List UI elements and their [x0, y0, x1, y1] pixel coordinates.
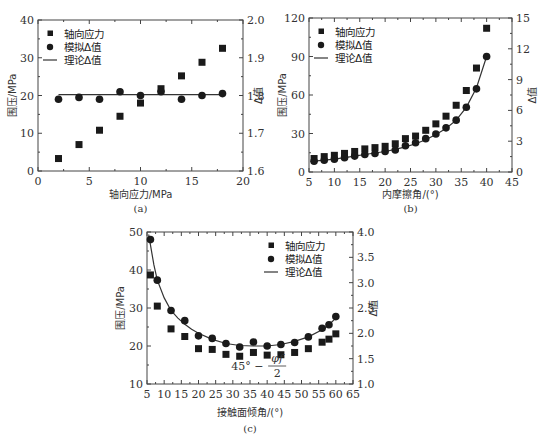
y-tick-label: 10	[129, 378, 143, 391]
y-axis-label: 围压/MPa	[115, 286, 126, 330]
square-marker	[181, 333, 188, 340]
y2-axis-label: Δ值	[367, 300, 379, 317]
x-tick-label: 50	[295, 388, 309, 401]
circle-marker	[137, 92, 145, 100]
square-marker	[178, 72, 185, 79]
legend-circle-label: 模拟Δ值	[285, 253, 323, 265]
chart-c: 510152025303540455055606510203040501.01.…	[115, 226, 379, 434]
square-marker	[332, 330, 339, 337]
y2-tick-label: 3	[516, 135, 523, 148]
svg-text:45° −: 45° −	[231, 360, 263, 373]
circle-marker	[381, 148, 389, 156]
y2-tick-label: 1.7	[247, 127, 265, 140]
circle-marker	[236, 343, 244, 351]
square-marker	[463, 87, 470, 94]
legend-line-label: 理论Δ值	[64, 54, 102, 66]
circle-marker	[452, 116, 460, 124]
circle-marker	[310, 157, 318, 165]
y2-axis-label: Δ值	[526, 87, 538, 104]
y2-tick-label: 2.0	[357, 327, 375, 340]
circle-marker	[351, 152, 359, 160]
x-tick-label: 45	[277, 388, 291, 401]
x-tick-label: 10	[134, 175, 148, 188]
legend-circle-icon	[268, 256, 274, 262]
y-axis-label: 围压/MPa	[7, 74, 18, 118]
circle-marker	[208, 335, 216, 343]
y2-tick-label: 4.0	[357, 226, 375, 239]
y2-tick-label: 3.0	[357, 277, 375, 290]
circle-marker	[305, 333, 313, 341]
circle-marker	[178, 95, 186, 103]
circle-marker	[277, 341, 285, 349]
legend-line-label: 理论Δ值	[335, 52, 373, 64]
y2-tick-label: 1.0	[357, 378, 375, 391]
square-marker	[236, 353, 243, 360]
y2-tick-label: 15	[516, 12, 530, 25]
circle-marker	[402, 142, 410, 150]
x-tick-label: 20	[192, 388, 206, 401]
circle-marker	[75, 94, 83, 102]
circle-marker	[412, 139, 420, 147]
subfigure-caption: (b)	[403, 203, 417, 214]
square-marker	[76, 141, 83, 148]
x-tick-label: 35	[243, 388, 257, 401]
square-marker	[250, 349, 257, 356]
theory-line	[314, 57, 487, 162]
square-marker	[319, 339, 326, 346]
circle-marker	[483, 53, 491, 61]
legend-square-label: 轴向应力	[285, 240, 325, 252]
circle-marker	[371, 150, 379, 158]
y-tick-label: 20	[129, 340, 143, 353]
square-marker	[422, 127, 429, 134]
x-tick-label: 5	[306, 176, 313, 189]
x-tick-label: 35	[454, 176, 468, 189]
circle-marker	[332, 313, 340, 321]
y2-tick-label: 2.0	[247, 14, 265, 27]
y2-axis-label: Δ值	[252, 87, 264, 104]
y-tick-label: 30	[20, 52, 34, 65]
square-marker	[473, 65, 480, 72]
circle-marker	[442, 124, 450, 132]
circle-marker	[432, 130, 440, 138]
square-marker	[195, 345, 202, 352]
circle-marker	[198, 92, 206, 100]
circle-marker	[331, 155, 339, 163]
y-tick-label: 10	[20, 127, 34, 140]
x-tick-label: 15	[353, 176, 367, 189]
legend: 轴向应力模拟Δ值理论Δ值	[314, 26, 375, 64]
circle-marker	[291, 339, 299, 347]
x-tick-label: 0	[35, 175, 42, 188]
legend-circle-label: 模拟Δ值	[335, 39, 373, 51]
legend-circle-icon	[318, 42, 324, 48]
y-tick-label: 30	[291, 128, 305, 141]
circle-marker	[473, 85, 481, 93]
square-marker	[305, 345, 312, 352]
square-marker	[137, 100, 144, 107]
x-axis-label: 内摩擦角/(°)	[382, 188, 438, 200]
subfigure-caption: (a)	[134, 203, 148, 214]
x-tick-label: 20	[378, 176, 392, 189]
x-tick-label: 15	[185, 175, 199, 188]
x-tick-label: 40	[480, 176, 494, 189]
circle-marker	[167, 307, 175, 315]
x-tick-label: 40	[260, 388, 274, 401]
chart-a: 051015200102030401.61.71.81.92.0轴向应力/MPa…	[7, 14, 265, 214]
circle-marker	[147, 236, 155, 244]
y-tick-label: 90	[291, 51, 305, 64]
x-axis-label: 接触面倾角/(°)	[217, 406, 283, 418]
x-tick-label: 25	[209, 388, 223, 401]
circle-marker	[422, 135, 430, 143]
circle-marker	[195, 332, 203, 340]
square-marker	[154, 303, 161, 310]
x-tick-label: 30	[429, 176, 443, 189]
x-tick-label: 5	[86, 175, 93, 188]
y2-tick-label: 0	[516, 166, 523, 179]
subfigure-caption: (c)	[243, 423, 257, 434]
legend-square-icon	[319, 29, 325, 35]
square-marker	[453, 102, 460, 109]
square-marker	[443, 113, 450, 120]
square-marker	[96, 127, 103, 134]
square-marker	[432, 120, 439, 127]
square-marker	[483, 25, 490, 32]
legend-circle-label: 模拟Δ值	[64, 41, 102, 53]
